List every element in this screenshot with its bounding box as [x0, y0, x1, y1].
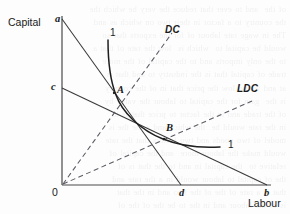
labour-axis-label: Labour [248, 198, 281, 209]
point-marker-b [163, 138, 165, 140]
point-marker-a [113, 92, 115, 94]
isoquant-curve-1 [108, 40, 220, 147]
isocost-line-c-b [62, 88, 267, 185]
capital-axis-label: Capital [8, 17, 41, 28]
dc-ray-label: DC [165, 25, 180, 35]
isoquant-label-right: 1 [228, 140, 234, 150]
point-label-A: A [117, 85, 124, 96]
ldc-ray-label: LDC [237, 84, 258, 94]
point-label-a: a [55, 14, 60, 25]
origin-label: 0 [52, 187, 58, 198]
dc-ray [63, 33, 172, 184]
point-label-d: d [179, 188, 184, 199]
isoquant-label-left: 1 [110, 28, 116, 38]
ldc-ray [63, 101, 252, 184]
point-label-c: c [51, 82, 56, 93]
point-label-B: B [166, 123, 173, 134]
diagram-canvas [0, 0, 290, 214]
isoquant-figure: of the and to ever that reduce the very … [0, 0, 290, 214]
